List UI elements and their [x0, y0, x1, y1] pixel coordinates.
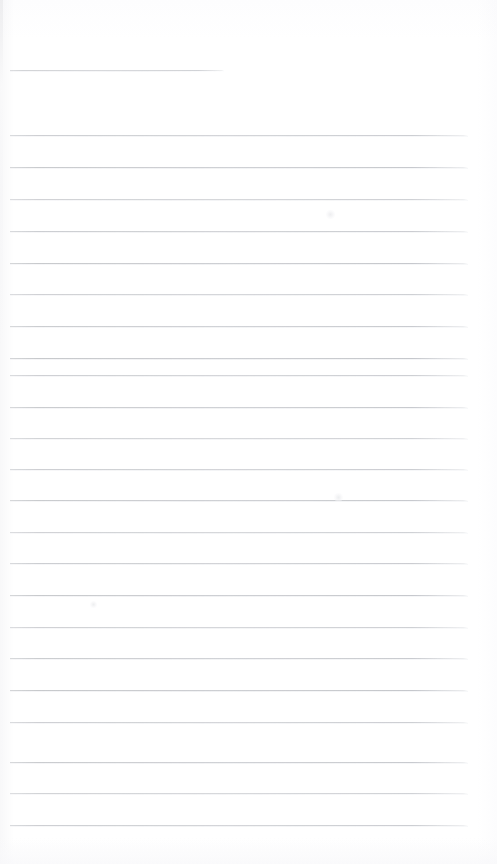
ruled-line	[10, 500, 468, 501]
ruled-line	[10, 199, 468, 200]
ruled-line	[10, 532, 468, 533]
ruled-line	[10, 595, 468, 596]
ruled-line	[10, 722, 468, 723]
ruled-line	[10, 793, 468, 794]
ruled-line	[10, 326, 468, 327]
scan-smudge	[334, 493, 343, 502]
ruled-line	[10, 658, 468, 659]
ruled-line	[10, 70, 224, 71]
ruled-line	[10, 438, 468, 439]
scan-smudge	[326, 210, 335, 219]
ruled-line	[10, 263, 468, 264]
ruled-line	[10, 825, 468, 826]
ruled-line	[10, 407, 468, 408]
ruled-line	[10, 294, 468, 295]
scan-edge-left	[0, 0, 3, 864]
scan-edge-bottom	[0, 838, 497, 864]
paper-surface	[0, 0, 497, 864]
ruled-line	[10, 167, 468, 168]
ruled-line	[10, 375, 468, 376]
scanned-page	[0, 0, 497, 864]
ruled-line	[10, 762, 468, 763]
ruled-line	[10, 627, 468, 628]
ruled-line	[10, 690, 468, 691]
ruled-line	[10, 358, 468, 359]
ruled-line	[10, 135, 468, 136]
ruled-line	[10, 469, 468, 470]
ruled-line	[10, 563, 468, 564]
scan-smudge	[90, 601, 97, 608]
ruled-line	[10, 231, 468, 232]
